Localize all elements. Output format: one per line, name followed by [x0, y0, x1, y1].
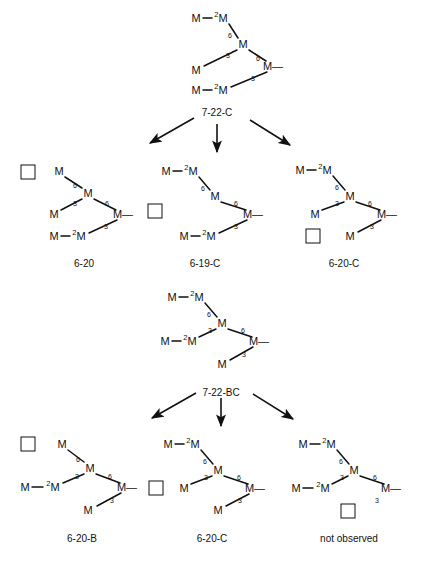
node-reducing: M— [243, 209, 263, 220]
linkage-3-lower: 3 [208, 327, 212, 334]
linkage-superscript: 2 [202, 228, 206, 237]
bond-3-lower [204, 50, 237, 66]
linkage-superscript: 2 [316, 480, 320, 489]
node-terminal-c: M [179, 231, 188, 242]
linkage-superscript: 2 [214, 82, 218, 91]
arrow-right [253, 394, 293, 419]
reactant-caption-row-1: 7-22-C [202, 108, 233, 118]
node-terminal-a: M [167, 292, 176, 303]
node-branch-c: 2M [72, 231, 85, 242]
node-branch-b: 2M [183, 336, 196, 347]
node-terminal-b: M [291, 483, 300, 494]
linkage-superscript: 2 [186, 436, 190, 445]
linkage-superscript: 2 [184, 163, 188, 172]
linkage-3-branch: 3 [110, 497, 114, 504]
linkage-6-upper: 6 [76, 456, 80, 463]
node-core: M [345, 191, 354, 202]
node-terminal-a: M [163, 439, 172, 450]
linkage-3-branch: 3 [370, 223, 374, 230]
arrow-right [250, 120, 290, 145]
reactant-caption-row-2: 7-22-BC [202, 388, 239, 398]
linkage-6-upper: 6 [207, 311, 211, 318]
node-terminal-b: M [310, 209, 319, 220]
empty-residue-square [148, 204, 163, 219]
linkage-superscript: 2 [190, 289, 194, 298]
linkage-superscript: 2 [183, 333, 187, 342]
linkage-3-lower: 3 [204, 474, 208, 481]
linkage-6-lower: 6 [241, 327, 245, 334]
node-core: M [349, 465, 358, 476]
linkage-3-branch: 3 [104, 223, 108, 230]
linkage-3-branch: 3 [238, 497, 242, 504]
node-reducing: M— [381, 483, 401, 494]
node-reducing: M— [263, 61, 283, 72]
linkage-superscript: 2 [322, 436, 326, 445]
bond-3-lower [63, 474, 84, 483]
linkage-superscript: 2 [46, 479, 50, 488]
arrow-left [152, 393, 196, 418]
linkage-6-lower: 6 [105, 200, 109, 207]
node-core: M [213, 465, 222, 476]
bond-3-branch [219, 220, 247, 233]
linkage-6-upper: 6 [73, 182, 77, 189]
linkage-3-branch: 3 [375, 497, 379, 504]
linkage-3-branch: 3 [242, 351, 246, 358]
node-branch-b: 2M [316, 483, 329, 494]
node-core: M [210, 191, 219, 202]
linkage-3-lower: 3 [335, 200, 339, 207]
node-branch-a: 2M [184, 166, 197, 177]
node-core: M [238, 39, 247, 50]
bond-3-branch [97, 493, 121, 506]
node-reducing: M— [245, 483, 265, 494]
linkage-6-lower: 6 [237, 474, 241, 481]
product-caption-row-2-2: not observed [320, 534, 378, 544]
product-caption-row-1-2: 6-20-C [329, 259, 360, 269]
node-terminal-c: M [83, 505, 92, 516]
node-terminal-b: M [49, 209, 58, 220]
bond-3-lower [61, 199, 82, 210]
node-branch-c: 2M [202, 231, 215, 242]
linkage-6-lower: 6 [373, 474, 377, 481]
node-terminal-b: M [179, 483, 188, 494]
bond-3-lower [322, 202, 344, 210]
bond-3-branch [231, 72, 267, 87]
linkage-3-lower: 3 [340, 474, 344, 481]
node-reducing: M— [113, 209, 133, 220]
node-terminal-a: M [295, 165, 304, 176]
node-reducing: M— [249, 336, 269, 347]
product-caption-row-2-1: 6-20-C [197, 534, 228, 544]
node-branch-a: 2M [190, 292, 203, 303]
linkage-superscript: 2 [72, 228, 76, 237]
node-terminal-c: M [345, 231, 354, 242]
node-terminal-c: M [213, 505, 222, 516]
product-caption-row-1-0: 6-20 [74, 259, 94, 269]
linkage-3-lower: 3 [226, 52, 230, 59]
linkage-3-lower: 3 [73, 200, 77, 207]
bond-3-lower [191, 476, 212, 484]
node-branch-b: 2M [46, 482, 59, 493]
node-terminal-c: M [217, 359, 226, 370]
linkage-6-lower: 6 [234, 200, 238, 207]
linkage-3-branch: 3 [234, 223, 238, 230]
node-core: M [217, 318, 226, 329]
bond-3-branch [89, 220, 117, 233]
node-core: M [85, 463, 94, 474]
product-caption-row-2-0: 6-20-B [67, 534, 97, 544]
node-branch-a: 2M [186, 439, 199, 450]
node-terminal-b: M [191, 65, 200, 76]
figure-canvas: M2MMMM—M2M63637-22-CMMMM—M2M63636-20M2MM… [0, 0, 434, 562]
empty-residue-square [21, 437, 36, 452]
node-branch-a: 2M [318, 165, 331, 176]
linkage-6-upper: 6 [228, 32, 232, 39]
product-caption-row-1-1: 6-19-C [190, 259, 221, 269]
node-reducing: M— [377, 209, 397, 220]
linkage-6-lower: 6 [256, 55, 260, 62]
empty-residue-square [21, 165, 36, 180]
node-terminal-b: M [20, 482, 29, 493]
node-terminal-a: M [161, 166, 170, 177]
linkage-6-upper: 6 [201, 185, 205, 192]
linkage-3-lower: 3 [75, 473, 79, 480]
linkage-6-upper: 6 [339, 458, 343, 465]
node-terminal-b: M [160, 336, 169, 347]
linkage-6-upper: 6 [335, 184, 339, 191]
